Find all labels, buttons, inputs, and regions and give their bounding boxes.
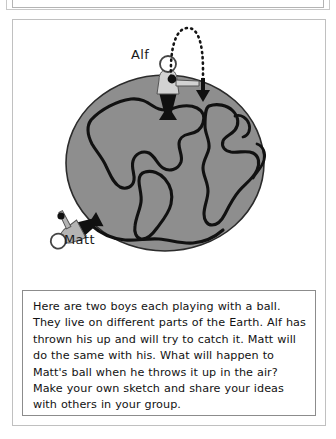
figure-label-alf: Alf bbox=[131, 47, 149, 62]
matt-ball bbox=[57, 212, 64, 219]
earth-illustration-svg bbox=[13, 20, 325, 288]
page-top-partial-border-inner bbox=[12, 0, 324, 8]
ball-marker bbox=[168, 75, 177, 84]
alf-arm bbox=[176, 80, 199, 86]
worksheet-panel: Alf Matt Here are two boys each playing … bbox=[12, 19, 326, 426]
prompt-paragraph: Here are two boys each playing with a ba… bbox=[33, 299, 306, 414]
illustration-area: Alf Matt bbox=[13, 20, 325, 288]
prompt-text-box: Here are two boys each playing with a ba… bbox=[22, 290, 316, 416]
alf-head bbox=[160, 56, 176, 72]
figure-label-matt: Matt bbox=[64, 232, 95, 247]
